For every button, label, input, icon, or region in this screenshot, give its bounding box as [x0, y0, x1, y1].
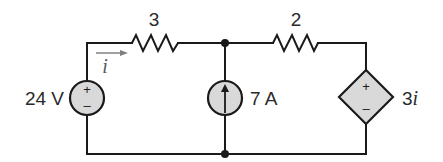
resistor-1-zigzag-icon	[132, 35, 178, 51]
resistor-2-zigzag-icon	[273, 35, 318, 51]
current-source: 7 A	[208, 81, 278, 115]
resistor-2-label: 2	[291, 9, 302, 30]
voltage-source-label: 24 V	[25, 88, 64, 109]
current-source-label: 7 A	[250, 88, 278, 109]
resistor-1-label: 3	[149, 9, 160, 30]
resistor-2: 2	[273, 9, 318, 51]
current-arrow-head-icon	[120, 50, 128, 56]
dependent-source-var: i	[413, 87, 419, 109]
circuit-diagram: 3 2 i + – 24 V 7 A + – 3i	[0, 0, 443, 162]
wire-right-top	[318, 43, 366, 70]
node-bottom	[221, 150, 229, 158]
resistor-1: 3	[132, 9, 178, 51]
current-indicator: i	[96, 50, 128, 77]
dependent-source-coef: 3	[402, 88, 413, 109]
dependent-source-minus: –	[362, 101, 370, 116]
dependent-source: + – 3i	[339, 70, 418, 124]
wire-left-top	[87, 43, 132, 81]
voltage-source-plus: +	[83, 82, 91, 97]
current-label: i	[102, 55, 108, 77]
dependent-source-plus: +	[362, 79, 370, 94]
dependent-source-label: 3i	[402, 87, 418, 109]
node-top	[221, 39, 229, 47]
voltage-source: + – 24 V	[25, 81, 104, 115]
voltage-source-minus: –	[83, 98, 91, 113]
wire-bottom	[87, 115, 366, 154]
